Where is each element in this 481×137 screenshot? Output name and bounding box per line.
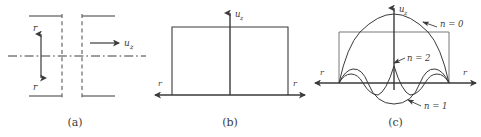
panel-a-caption: (a) [0, 116, 150, 129]
panel-a-radial-label-top: r [33, 23, 38, 33]
panel-b-vertical-axis-label-subscript: z [239, 14, 244, 21]
panel-b: r r u z (b) [150, 0, 310, 137]
mode-label-n0: n = 0 [440, 19, 464, 29]
panel-a-radial-label-bottom: r [33, 82, 38, 92]
mode-pointer-n1 [408, 100, 421, 106]
panel-c: r r u z n = 0 n = 1 [310, 0, 481, 137]
mode-label-n2: n = 2 [407, 53, 430, 63]
panel-c-left-axis-label: r [320, 68, 325, 77]
mode-pointer-n0 [423, 22, 437, 27]
panel-b-right-axis-label: r [293, 79, 298, 88]
panel-c-vertical-axis-label-subscript: z [403, 9, 408, 16]
panel-c-caption: (c) [310, 116, 481, 129]
panel-c-right-axis-label: r [463, 68, 468, 77]
mode-pointer-n2 [394, 58, 405, 63]
panel-a: r r u z (a) [0, 0, 150, 137]
panel-a-axial-label-subscript: z [129, 43, 134, 51]
panel-b-left-axis-label: r [158, 79, 163, 88]
figure-container: r r u z (a) [0, 0, 481, 137]
mode-label-n1: n = 1 [424, 101, 447, 111]
panel-b-caption: (b) [150, 116, 310, 129]
